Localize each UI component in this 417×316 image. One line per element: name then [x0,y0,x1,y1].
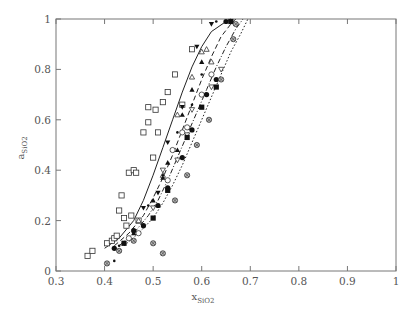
y-tick-label: 0.2 [34,215,51,227]
series-crossed-circle [104,21,238,266]
y-axis-label: aSiO2 [15,136,29,159]
x-tick-label: 0.8 [291,275,308,287]
y-tick-label: 0.6 [34,114,51,126]
y-tick-label: 0 [44,265,51,277]
series-open-square [85,47,195,259]
y-tick-label: 1 [44,13,51,25]
svg-text:xSiO2: xSiO2 [192,291,215,305]
curve-long-dash [114,19,235,246]
x-tick-label: 0.6 [193,275,210,287]
x-tick-label: 1 [393,275,400,287]
y-tick-label: 0.4 [34,164,51,176]
x-tick-label: 0.9 [339,275,356,287]
x-tick-label: 0.7 [242,275,259,287]
fit-curves [105,19,248,248]
chart: 0.30.40.50.60.70.80.9100.20.40.60.81 xSi… [0,0,417,316]
x-tick-label: 0.5 [145,275,162,287]
plot-frame [56,19,396,271]
x-axis-label: xSiO2 [192,291,215,305]
series-filled-triangle-up [131,59,204,235]
series-open-circle [126,72,214,241]
y-tick-label: 0.8 [34,63,51,75]
curve-solid [105,19,231,248]
axis-ticks: 0.30.40.50.60.70.80.9100.20.40.60.81 [34,13,399,287]
data-points [85,19,238,266]
x-tick-label: 0.4 [96,275,113,287]
svg-text:aSiO2: aSiO2 [15,136,29,159]
